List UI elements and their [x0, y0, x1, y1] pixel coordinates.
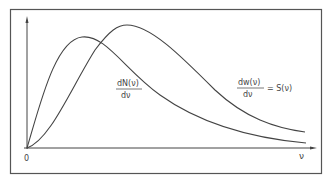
x-axis-label: ν — [299, 151, 304, 161]
spectrum-diagram: 0 ν dN(ν) dν dw(ν) dν = S(ν) — [0, 0, 331, 185]
x-axis-arrow-icon — [310, 147, 317, 150]
dw-label-equals-S: = S(ν) — [267, 84, 292, 93]
dw-label-denominator: dν — [243, 90, 253, 99]
dw-label-numerator: dw(ν) — [238, 78, 260, 87]
dN-label-denominator: dν — [121, 91, 131, 100]
dN-label-numerator: dN(ν) — [117, 79, 139, 88]
curve-dN-dv — [27, 37, 306, 148]
origin-label: 0 — [24, 154, 29, 163]
y-axis-arrow-icon — [26, 16, 29, 23]
